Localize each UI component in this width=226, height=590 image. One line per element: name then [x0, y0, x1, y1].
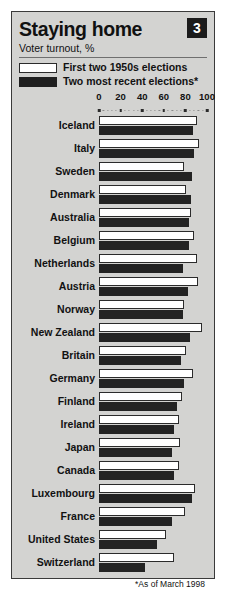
country-label: Japan: [19, 442, 99, 453]
bar-recent: [99, 218, 189, 227]
country-label: Austria: [19, 281, 99, 292]
bar-1950s: [99, 392, 182, 401]
x-tick-minor: [133, 110, 134, 111]
bar-group: [99, 506, 207, 527]
country-label: Ireland: [19, 419, 99, 430]
country-label: United States: [19, 534, 99, 545]
bar-group: [99, 460, 207, 481]
bar-group: [99, 115, 207, 136]
chart-row: Britain: [19, 344, 207, 367]
plot-area: 020406080100 IcelandItalySwedenDenmarkAu…: [19, 91, 207, 574]
country-label: Switzerland: [19, 557, 99, 568]
x-tick-minor: [202, 110, 203, 111]
bar-group: [99, 391, 207, 412]
footnote: *As of March 1998: [19, 579, 207, 589]
bar-1950s: [99, 507, 185, 516]
bar-1950s: [99, 139, 199, 148]
chart-row: United States: [19, 528, 207, 551]
x-tick-minor: [198, 110, 199, 111]
country-label: Belgium: [19, 235, 99, 246]
bar-recent: [99, 195, 191, 204]
bar-1950s: [99, 254, 197, 263]
x-tick-mark: [119, 109, 122, 112]
x-tick-minor: [146, 110, 147, 111]
bar-group: [99, 345, 207, 366]
x-tick-mark: [141, 109, 144, 112]
x-tick-minor: [111, 110, 112, 111]
header: Staying home 3: [19, 18, 207, 42]
chart-row: Ireland: [19, 413, 207, 436]
bar-recent: [99, 563, 145, 572]
x-tick-minor: [159, 110, 160, 111]
chart-row: Germany: [19, 367, 207, 390]
x-axis-labels: 020406080100: [99, 91, 207, 108]
chart-row: Netherlands: [19, 252, 207, 275]
bar-rows: IcelandItalySwedenDenmarkAustraliaBelgiu…: [19, 114, 207, 574]
country-label: Italy: [19, 143, 99, 154]
x-tick-mark: [163, 109, 166, 112]
country-label: Finland: [19, 396, 99, 407]
chart-row: Belgium: [19, 229, 207, 252]
bar-recent: [99, 333, 190, 342]
country-label: Netherlands: [19, 258, 99, 269]
bar-1950s: [99, 438, 180, 447]
country-label: Canada: [19, 465, 99, 476]
bar-group: [99, 483, 207, 504]
x-tick-mark: [98, 109, 101, 112]
bar-1950s: [99, 185, 186, 194]
page-title: Staying home: [19, 18, 207, 40]
bar-1950s: [99, 369, 193, 378]
country-label: France: [19, 511, 99, 522]
x-tick-label: 40: [137, 91, 148, 102]
x-tick-minor: [189, 110, 190, 111]
bar-1950s: [99, 277, 198, 286]
chart-row: Luxembourg: [19, 482, 207, 505]
bar-recent: [99, 310, 183, 319]
chart-row: Italy: [19, 137, 207, 160]
bar-group: [99, 437, 207, 458]
bar-group: [99, 276, 207, 297]
chart-row: Australia: [19, 206, 207, 229]
x-tick-minor: [124, 110, 125, 111]
bar-1950s: [99, 116, 197, 125]
legend-swatch-icon-light: [19, 63, 57, 73]
chart-row: New Zealand: [19, 321, 207, 344]
bar-group: [99, 299, 207, 320]
bar-group: [99, 161, 207, 182]
x-tick-label: 60: [159, 91, 170, 102]
country-label: Britain: [19, 350, 99, 361]
legend-label-dark: Two most recent elections*: [63, 76, 198, 87]
x-tick-minor: [155, 110, 156, 111]
bar-recent: [99, 494, 192, 503]
bar-1950s: [99, 300, 184, 309]
country-label: Germany: [19, 373, 99, 384]
bar-recent: [99, 517, 172, 526]
legend-label-light: First two 1950s elections: [63, 62, 187, 73]
bar-recent: [99, 540, 157, 549]
bar-group: [99, 529, 207, 550]
chart-row: Norway: [19, 298, 207, 321]
x-tick-minor: [116, 110, 117, 111]
country-label: Denmark: [19, 189, 99, 200]
bar-recent: [99, 149, 194, 158]
bar-recent: [99, 241, 189, 250]
bar-group: [99, 253, 207, 274]
x-axis-ticks: [99, 108, 207, 113]
x-tick-minor: [150, 110, 151, 111]
x-tick-minor: [172, 110, 173, 111]
chart-inner: Staying home 3 Voter turnout, % First tw…: [12, 12, 214, 578]
chart-row: Austria: [19, 275, 207, 298]
header-divider: [19, 57, 207, 58]
legend-swatch-icon-dark: [19, 77, 57, 87]
chart-row: Canada: [19, 459, 207, 482]
bar-group: [99, 138, 207, 159]
bar-recent: [99, 425, 174, 434]
x-tick-minor: [107, 110, 108, 111]
chart-row: Iceland: [19, 114, 207, 137]
bar-recent: [99, 264, 183, 273]
x-tick-minor: [180, 110, 181, 111]
legend-item-dark: Two most recent elections*: [19, 75, 207, 88]
x-tick-label: 100: [199, 91, 215, 102]
chart-row: Denmark: [19, 183, 207, 206]
bar-group: [99, 368, 207, 389]
